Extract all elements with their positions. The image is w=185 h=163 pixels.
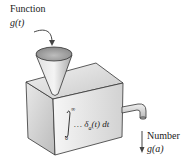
output-symbol: g(a) (147, 143, 164, 154)
integral-upper-limit: ∞ (71, 104, 75, 115)
integral-lower-limit: 0 (65, 133, 68, 144)
integrand: … δa(t) dt (74, 119, 109, 134)
funnel-rim (36, 47, 72, 61)
input-symbol: g(t) (10, 17, 24, 28)
output-title: Number (147, 130, 180, 141)
output-pipe (122, 104, 146, 118)
integrand-tail: (t) dt (91, 119, 109, 129)
input-title: Function (10, 3, 46, 14)
input-arrow-head (49, 40, 55, 46)
integrand-main: … δ (74, 119, 88, 129)
output-arrow-head (140, 147, 145, 153)
sifting-machine-diagram: Function g(t) ∞ 0 … δa(t) dt Number g(a) (0, 0, 185, 163)
